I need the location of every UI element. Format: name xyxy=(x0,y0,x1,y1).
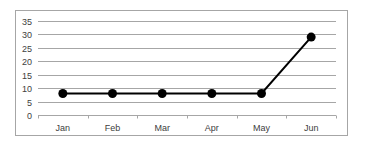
y-tick-label: 5 xyxy=(27,98,32,108)
y-tick-label: 35 xyxy=(22,17,32,27)
data-point-marker xyxy=(307,33,316,42)
data-point-marker xyxy=(207,89,216,98)
x-tick-label: Mar xyxy=(154,123,170,133)
data-point-marker xyxy=(257,89,266,98)
data-point-marker xyxy=(108,89,117,98)
data-point-marker xyxy=(58,89,67,98)
y-axis: 05101520253035 xyxy=(22,17,32,121)
data-point-marker xyxy=(158,89,167,98)
gridlines xyxy=(38,22,336,103)
x-tick-label: Feb xyxy=(105,123,121,133)
y-tick-label: 10 xyxy=(22,84,32,94)
y-tick-label: 15 xyxy=(22,71,32,81)
x-axis: JanFebMarAprMayJun xyxy=(38,116,337,134)
y-tick-label: 25 xyxy=(22,44,32,54)
y-tick-label: 20 xyxy=(22,57,32,67)
line-chart: 05101520253035 JanFebMarAprMayJun xyxy=(0,0,366,145)
x-tick-label: Apr xyxy=(205,123,219,133)
y-tick-label: 30 xyxy=(22,30,32,40)
x-tick-label: Jan xyxy=(56,123,71,133)
x-tick-label: May xyxy=(253,123,271,133)
y-tick-label: 0 xyxy=(27,111,32,121)
series-line xyxy=(63,37,311,93)
x-tick-label: Jun xyxy=(304,123,319,133)
